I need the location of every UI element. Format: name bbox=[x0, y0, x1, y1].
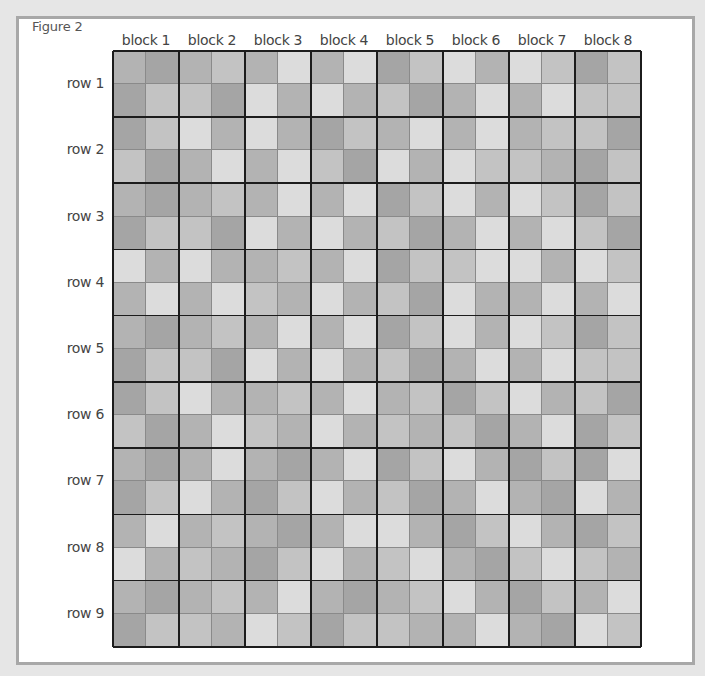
grid-cell bbox=[278, 150, 311, 183]
row-divider-horizontal bbox=[113, 646, 641, 648]
grid-cell bbox=[542, 481, 575, 514]
grid-cell bbox=[311, 316, 344, 349]
grid-cell bbox=[146, 117, 179, 150]
grid-cell bbox=[608, 349, 641, 382]
grid-cell bbox=[575, 382, 608, 415]
grid-cell bbox=[377, 515, 410, 548]
grid-cell bbox=[509, 515, 542, 548]
grid-cell bbox=[608, 448, 641, 481]
grid-cell bbox=[212, 614, 245, 647]
grid-cell bbox=[410, 382, 443, 415]
block-divider-vertical bbox=[376, 51, 378, 647]
grid-cell bbox=[146, 84, 179, 117]
grid-cell bbox=[311, 217, 344, 250]
grid-cell bbox=[443, 415, 476, 448]
grid-cell bbox=[410, 415, 443, 448]
grid-cell bbox=[146, 150, 179, 183]
grid-cell bbox=[311, 448, 344, 481]
grid-cell bbox=[344, 614, 377, 647]
grid-cell bbox=[509, 581, 542, 614]
grid-cell bbox=[245, 183, 278, 216]
grid-cell bbox=[146, 481, 179, 514]
grid-cell bbox=[212, 150, 245, 183]
grid-cell bbox=[245, 84, 278, 117]
grid-cell bbox=[245, 515, 278, 548]
grid-cell bbox=[443, 382, 476, 415]
grid-cell bbox=[278, 183, 311, 216]
grid-cell bbox=[278, 316, 311, 349]
grid-cell bbox=[212, 548, 245, 581]
grid-cell bbox=[575, 117, 608, 150]
grid-cell bbox=[245, 382, 278, 415]
grid-cell bbox=[509, 481, 542, 514]
grid-cell bbox=[179, 581, 212, 614]
grid-cell bbox=[410, 217, 443, 250]
grid-cell bbox=[278, 448, 311, 481]
grid-cell bbox=[509, 250, 542, 283]
grid-cell bbox=[476, 150, 509, 183]
grid-cell bbox=[443, 614, 476, 647]
grid-cell bbox=[410, 349, 443, 382]
grid-cell bbox=[245, 415, 278, 448]
grid-cell bbox=[113, 515, 146, 548]
row-label: row 7 bbox=[40, 472, 104, 488]
block-divider-vertical bbox=[310, 51, 312, 647]
grid-cell bbox=[212, 217, 245, 250]
grid-cell bbox=[443, 150, 476, 183]
grid-cell bbox=[542, 548, 575, 581]
column-label: block 3 bbox=[245, 32, 311, 48]
grid-cell bbox=[377, 448, 410, 481]
grid-cell bbox=[542, 581, 575, 614]
grid-cell bbox=[344, 183, 377, 216]
grid-cell bbox=[509, 217, 542, 250]
grid-cell bbox=[377, 415, 410, 448]
grid-cell bbox=[410, 481, 443, 514]
grid-cell bbox=[509, 316, 542, 349]
grid-cell bbox=[608, 515, 641, 548]
grid-cell bbox=[179, 382, 212, 415]
grid-cell bbox=[608, 150, 641, 183]
column-label: block 6 bbox=[443, 32, 509, 48]
grid-cell bbox=[278, 217, 311, 250]
grid-cell bbox=[443, 515, 476, 548]
grid-cell bbox=[278, 382, 311, 415]
column-label: block 2 bbox=[179, 32, 245, 48]
grid-cell bbox=[542, 117, 575, 150]
grid-cell bbox=[608, 415, 641, 448]
grid-cell bbox=[146, 183, 179, 216]
grid-cell bbox=[179, 448, 212, 481]
grid-cell bbox=[245, 150, 278, 183]
grid-cell bbox=[410, 150, 443, 183]
grid-cell bbox=[476, 51, 509, 84]
grid-cell bbox=[575, 481, 608, 514]
grid-cell bbox=[212, 349, 245, 382]
grid-cell bbox=[311, 51, 344, 84]
grid-cell bbox=[311, 250, 344, 283]
grid-cell bbox=[245, 250, 278, 283]
grid-cell bbox=[344, 515, 377, 548]
grid-cell bbox=[278, 614, 311, 647]
grid-cell bbox=[245, 581, 278, 614]
grid-cell bbox=[311, 581, 344, 614]
grid-cell bbox=[443, 117, 476, 150]
column-label: block 7 bbox=[509, 32, 575, 48]
grid-cell bbox=[179, 150, 212, 183]
grid-cell bbox=[377, 183, 410, 216]
grid-cell bbox=[542, 316, 575, 349]
grid-cell bbox=[344, 84, 377, 117]
grid-cell bbox=[542, 349, 575, 382]
grid-cell bbox=[146, 581, 179, 614]
grid-cell bbox=[179, 316, 212, 349]
grid-cell bbox=[509, 382, 542, 415]
row-label: row 3 bbox=[40, 208, 104, 224]
grid-cell bbox=[344, 581, 377, 614]
grid-cell bbox=[476, 481, 509, 514]
grid-cell bbox=[113, 150, 146, 183]
grid-cell bbox=[608, 581, 641, 614]
grid-cell bbox=[476, 415, 509, 448]
grid-cell bbox=[476, 283, 509, 316]
grid-cell bbox=[179, 51, 212, 84]
grid-cell bbox=[476, 548, 509, 581]
grid-cell bbox=[344, 250, 377, 283]
grid-cell bbox=[542, 448, 575, 481]
